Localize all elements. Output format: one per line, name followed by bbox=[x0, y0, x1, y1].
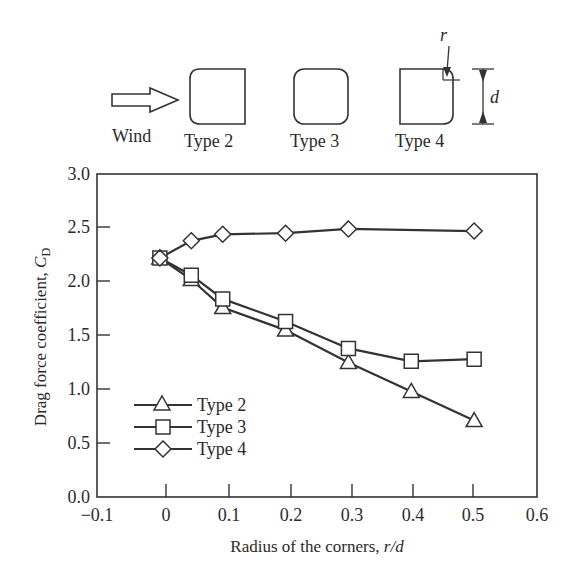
svg-text:0.2: 0.2 bbox=[280, 505, 303, 525]
svg-text:0.5: 0.5 bbox=[462, 505, 485, 525]
wind-arrow-icon bbox=[112, 88, 178, 112]
svg-text:3.0: 3.0 bbox=[68, 164, 91, 184]
depth-dimension: d bbox=[472, 69, 500, 124]
svg-text:0.5: 0.5 bbox=[68, 433, 91, 453]
square-marker-icon bbox=[467, 352, 481, 366]
type4-label: Type 4 bbox=[395, 131, 444, 151]
square-marker-icon bbox=[184, 268, 198, 282]
figure: Wind Type 2 Type 3 Type 4 r d bbox=[0, 0, 574, 580]
svg-text:Type 3: Type 3 bbox=[197, 417, 246, 437]
type3-shape bbox=[294, 69, 348, 124]
cross-section-diagram: Wind Type 2 Type 3 Type 4 r d bbox=[112, 25, 500, 151]
x-axis-title: Radius of the corners, r/d bbox=[230, 537, 404, 556]
triangle-marker-icon bbox=[340, 354, 356, 368]
type4-shape bbox=[400, 69, 453, 124]
triangle-marker-icon bbox=[403, 383, 419, 397]
diamond-marker-icon bbox=[340, 221, 356, 237]
square-marker-icon bbox=[279, 315, 293, 329]
diamond-marker-icon bbox=[215, 226, 231, 242]
svg-text:0.1: 0.1 bbox=[218, 505, 241, 525]
triangle-marker-icon bbox=[154, 396, 170, 410]
series-line-type4 bbox=[160, 229, 474, 258]
svg-text:1.0: 1.0 bbox=[68, 379, 91, 399]
diamond-marker-icon bbox=[155, 441, 171, 457]
svg-text:0.3: 0.3 bbox=[341, 505, 364, 525]
type2-label: Type 2 bbox=[184, 131, 233, 151]
triangle-marker-icon bbox=[466, 413, 482, 427]
svg-text:Type 2: Type 2 bbox=[197, 395, 246, 415]
svg-text:2.5: 2.5 bbox=[68, 217, 91, 237]
type3-label: Type 3 bbox=[290, 131, 339, 151]
diamond-marker-icon bbox=[183, 233, 199, 249]
svg-text:0: 0 bbox=[162, 505, 171, 525]
svg-text:1.5: 1.5 bbox=[68, 325, 91, 345]
radius-symbol: r bbox=[440, 25, 448, 45]
y-axis-title: Drag force coefficient, CD bbox=[31, 248, 53, 427]
type2-shape bbox=[190, 69, 245, 124]
legend-item-type3: Type 3 bbox=[134, 417, 246, 437]
diamond-marker-icon bbox=[278, 225, 294, 241]
svg-text:0.0: 0.0 bbox=[68, 487, 91, 507]
square-marker-icon bbox=[341, 341, 355, 355]
diamond-marker-icon bbox=[466, 223, 482, 239]
y-axis bbox=[97, 227, 110, 443]
x-axis bbox=[166, 484, 473, 497]
svg-text:−0.1: −0.1 bbox=[81, 505, 114, 525]
svg-text:0.6: 0.6 bbox=[526, 505, 549, 525]
svg-text:2.0: 2.0 bbox=[68, 271, 91, 291]
square-marker-icon bbox=[404, 354, 418, 368]
square-marker-icon bbox=[216, 292, 230, 306]
legend-item-type2: Type 2 bbox=[134, 395, 246, 415]
svg-text:0.4: 0.4 bbox=[402, 505, 425, 525]
legend: Type 2 Type 3 Type 4 bbox=[134, 395, 246, 459]
legend-item-type4: Type 4 bbox=[134, 439, 246, 459]
x-tick-labels: −0.1 0 0.1 0.2 0.3 0.4 0.5 0.6 bbox=[81, 505, 549, 525]
chart: 3.0 2.5 2.0 1.5 1.0 0.5 0.0 −0.1 0 0.1 0… bbox=[31, 164, 548, 556]
depth-symbol: d bbox=[490, 87, 500, 107]
y-tick-labels: 3.0 2.5 2.0 1.5 1.0 0.5 0.0 bbox=[68, 164, 91, 507]
wind-label: Wind bbox=[112, 126, 151, 146]
square-marker-icon bbox=[156, 420, 170, 434]
svg-text:Type 4: Type 4 bbox=[197, 439, 246, 459]
